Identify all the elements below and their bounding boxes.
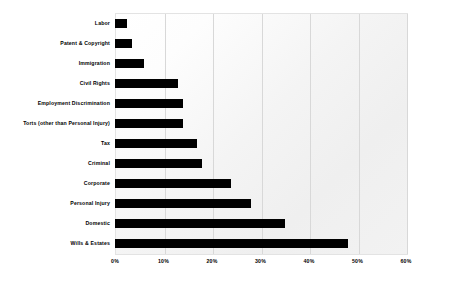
category-label-row: Corporate xyxy=(0,173,110,193)
category-label: Tax xyxy=(101,140,110,146)
category-label: Criminal xyxy=(88,160,110,166)
bar-row xyxy=(115,173,406,193)
category-label: Torts (other than Personal Injury) xyxy=(23,120,110,126)
x-tick-label: 20% xyxy=(207,258,218,264)
bar-row xyxy=(115,153,406,173)
bar xyxy=(115,99,183,108)
bar-row xyxy=(115,93,406,113)
category-label: Corporate xyxy=(84,180,110,186)
bar xyxy=(115,159,202,168)
category-label-row: Labor xyxy=(0,13,110,33)
bar-row xyxy=(115,33,406,53)
x-tick-label: 40% xyxy=(304,258,315,264)
category-label: Civil Rights xyxy=(80,80,110,86)
category-label: Patent & Copyright xyxy=(60,40,110,46)
bar xyxy=(115,199,251,208)
category-label: Wills & Estates xyxy=(71,240,110,246)
category-label-row: Domestic xyxy=(0,213,110,233)
bar-row xyxy=(115,133,406,153)
x-tick-label: 60% xyxy=(401,258,412,264)
bar-series xyxy=(115,13,406,253)
category-label: Labor xyxy=(95,20,110,26)
category-label-row: Tax xyxy=(0,133,110,153)
bar xyxy=(115,119,183,128)
bar-row xyxy=(115,113,406,133)
category-label: Employment Discrimination xyxy=(38,100,110,106)
bar xyxy=(115,179,231,188)
bar xyxy=(115,79,178,88)
bar-row xyxy=(115,193,406,213)
bar xyxy=(115,139,197,148)
bar-row xyxy=(115,233,406,253)
bar-row xyxy=(115,13,406,33)
x-tick-label: 30% xyxy=(255,258,266,264)
x-tick-label: 0% xyxy=(111,258,119,264)
category-label-row: Criminal xyxy=(0,153,110,173)
category-label-row: Torts (other than Personal Injury) xyxy=(0,113,110,133)
category-label: Domestic xyxy=(85,220,110,226)
category-axis-labels: LaborPatent & CopyrightImmigrationCivil … xyxy=(0,13,110,253)
bar-row xyxy=(115,213,406,233)
bar xyxy=(115,59,144,68)
bar xyxy=(115,19,127,28)
bar xyxy=(115,39,132,48)
category-label-row: Personal Injury xyxy=(0,193,110,213)
bar-row xyxy=(115,73,406,93)
category-label-row: Immigration xyxy=(0,53,110,73)
gridline xyxy=(407,14,408,254)
bar xyxy=(115,239,348,248)
bar-row xyxy=(115,53,406,73)
category-label-row: Wills & Estates xyxy=(0,233,110,253)
x-axis-tick-labels: 0%10%20%30%40%50%60% xyxy=(0,258,449,272)
x-tick-label: 50% xyxy=(352,258,363,264)
bar-chart: LaborPatent & CopyrightImmigrationCivil … xyxy=(0,0,449,284)
category-label-row: Civil Rights xyxy=(0,73,110,93)
bar xyxy=(115,219,285,228)
category-label-row: Patent & Copyright xyxy=(0,33,110,53)
category-label-row: Employment Discrimination xyxy=(0,93,110,113)
x-tick-label: 10% xyxy=(158,258,169,264)
category-label: Immigration xyxy=(79,60,110,66)
category-label: Personal Injury xyxy=(70,200,110,206)
